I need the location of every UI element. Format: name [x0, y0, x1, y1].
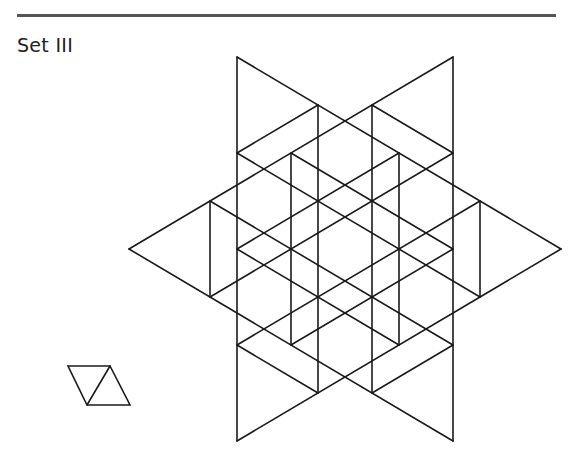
grid-line [237, 201, 480, 345]
star-grid-lines [129, 57, 561, 441]
grid-line [210, 153, 453, 297]
rhombus-diagonal [87, 366, 110, 405]
grid-line [237, 345, 318, 393]
rhombus-piece [68, 366, 130, 405]
star-grid-diagram [0, 0, 581, 452]
grid-line [237, 153, 480, 297]
grid-line [372, 105, 453, 153]
grid-line [237, 105, 318, 153]
grid-line [372, 345, 453, 393]
grid-line [210, 201, 453, 345]
